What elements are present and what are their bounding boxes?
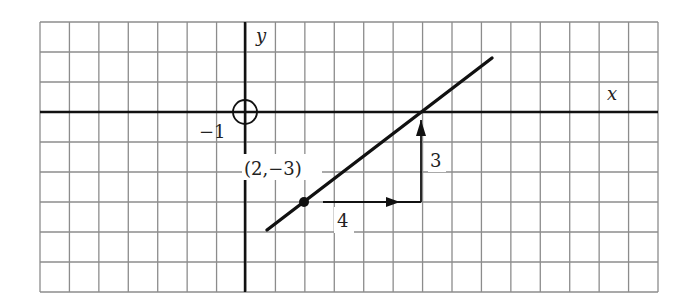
run-label: 4 xyxy=(337,210,348,231)
minus-one-label: −1 xyxy=(199,121,226,142)
coordinate-graph: y x −1 (2,−3) 3 4 xyxy=(0,0,693,306)
rise-arrowhead-icon xyxy=(416,120,426,136)
point-label: (2,−3) xyxy=(244,158,302,179)
x-axis-label: x xyxy=(607,83,617,104)
grid-lines xyxy=(40,22,658,292)
rise-label: 3 xyxy=(430,150,441,171)
y-axis-label: y xyxy=(255,25,267,46)
point-2-neg3 xyxy=(299,197,309,207)
